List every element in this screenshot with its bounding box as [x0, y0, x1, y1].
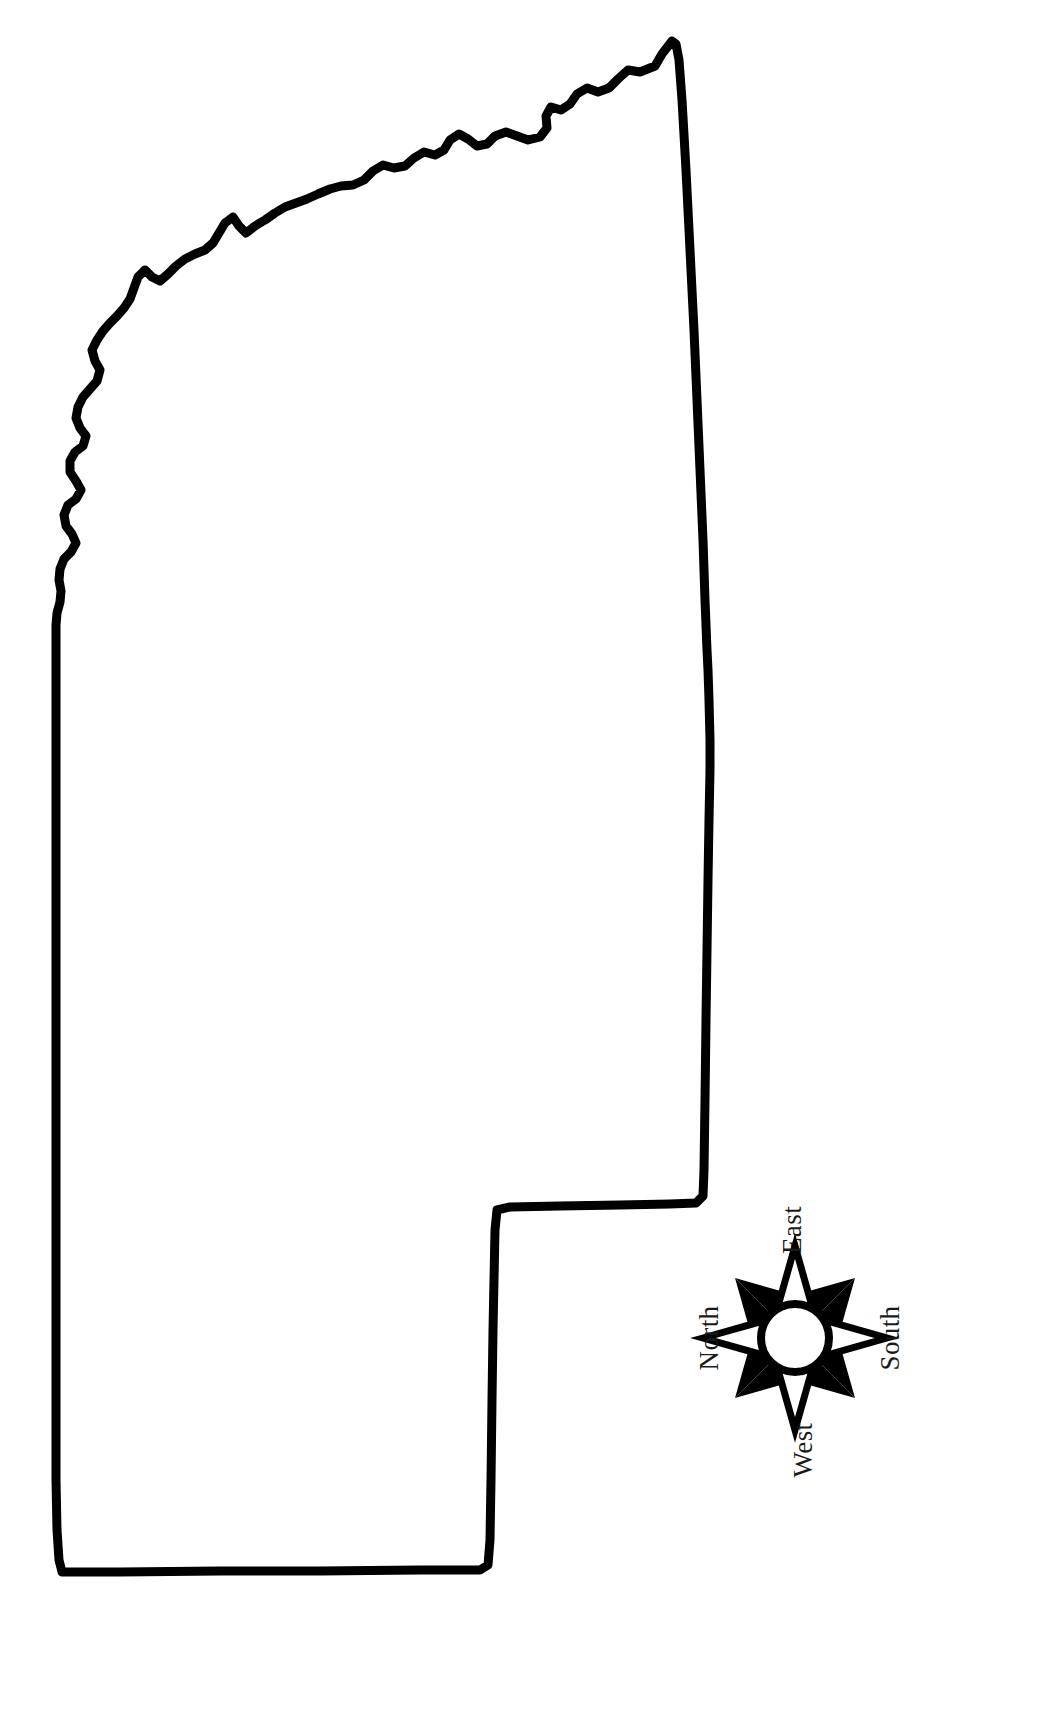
- compass-label-north: North: [694, 1305, 724, 1370]
- map-page: North East South West: [0, 0, 1042, 1717]
- state-outline-path: [56, 41, 710, 1572]
- compass-label-east: East: [777, 1206, 807, 1254]
- state-outline-group: [56, 41, 710, 1572]
- compass-rose: North East South West: [694, 1206, 905, 1478]
- compass-hub: [761, 1304, 829, 1372]
- compass-label-west: West: [788, 1422, 818, 1477]
- compass-label-south: South: [875, 1305, 905, 1370]
- map-canvas: North East South West: [0, 0, 1042, 1717]
